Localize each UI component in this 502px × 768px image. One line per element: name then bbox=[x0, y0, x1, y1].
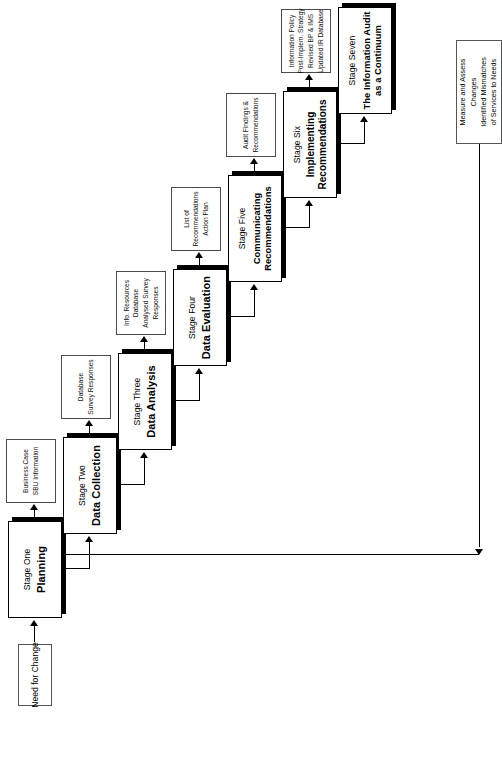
output-note-4: List ofRecommendationsAction Plan bbox=[171, 187, 221, 251]
output-note-4-line-2: Action Plan bbox=[201, 202, 211, 235]
arrow-stage-2-to-note-2 bbox=[85, 420, 93, 426]
output-note-5-line-1: Recommendations bbox=[251, 98, 261, 153]
connector-stage-4-to-note-4 bbox=[199, 257, 200, 267]
stage-box-7[interactable]: Stage SevenThe Information Audit as a Co… bbox=[338, 7, 392, 114]
stage-3-name: Data Analysis bbox=[145, 357, 158, 446]
connector-feedback-to-stage-one-h bbox=[479, 144, 480, 548]
connector-stage-5-to-stage-6-v bbox=[282, 227, 310, 228]
stage-5-name: Communicating Recommendations bbox=[251, 179, 273, 278]
output-note-6-line-3: Updated IR Database bbox=[316, 9, 326, 72]
entry-box-need-for-change: Need for Change bbox=[18, 644, 52, 706]
connector-stage-1-to-stage-2-h bbox=[89, 542, 90, 570]
output-note-4-line-0: List of bbox=[182, 210, 192, 228]
output-note-5: Audit Findings &Recommendations bbox=[226, 93, 276, 157]
output-note-3-line-1: Database bbox=[131, 289, 141, 317]
stage-box-6[interactable]: Stage SixImplementing Recommendations bbox=[283, 91, 337, 198]
stage-1-number: Stage One bbox=[22, 549, 32, 591]
stage-7-name: The Information Audit as a Continuum bbox=[361, 11, 383, 110]
connector-stage-5-to-note-5 bbox=[254, 163, 255, 173]
output-note-6-line-1: Post-Implem. Strategy bbox=[296, 8, 306, 73]
output-note-4-line-1: Recommendations bbox=[191, 192, 201, 247]
output-note-3-line-3: Responses bbox=[151, 287, 161, 320]
entry-label: Need for Change bbox=[29, 642, 41, 707]
feedback-box-measure-assess: Measure and AssessChangesIdentified Mism… bbox=[456, 40, 502, 144]
arrow-stage-1-to-stage-2 bbox=[85, 536, 93, 542]
connector-stage-1-to-note-1 bbox=[34, 509, 35, 519]
arrow-stage-3-to-note-3 bbox=[140, 336, 148, 342]
stage-6-name: Implementing Recommendations bbox=[305, 95, 329, 194]
connector-stage-1-to-stage-2-v bbox=[62, 568, 90, 569]
connector-stage-4-to-stage-5-h bbox=[254, 290, 255, 318]
connector-stage-2-to-stage-3-v bbox=[117, 484, 145, 485]
stage-5-number: Stage Five bbox=[237, 208, 247, 250]
output-note-6: Information PolicyPost-Implem. StrategyR… bbox=[281, 9, 331, 73]
arrow-stage-1-to-note-1 bbox=[30, 504, 38, 510]
connector-stage-6-to-note-6 bbox=[309, 79, 310, 89]
stage-box-4[interactable]: Stage FourData Evaluation bbox=[173, 269, 227, 366]
output-note-1: Business CaseSBU Information bbox=[6, 439, 56, 503]
connector-stage-2-to-stage-3-h bbox=[144, 458, 145, 486]
feedback-line-0: Measure and Assess bbox=[458, 59, 468, 126]
connector-stage-5-to-stage-6-h bbox=[309, 206, 310, 229]
stage-box-5[interactable]: Stage FiveCommunicating Recommendations bbox=[228, 175, 282, 282]
connector-stage-6-to-stage-7-h bbox=[364, 122, 365, 145]
feedback-line-3: of Services to Needs bbox=[489, 59, 499, 125]
output-note-1-line-0: Business Case bbox=[21, 449, 31, 493]
stage-2-number: Stage Two bbox=[77, 465, 87, 506]
stage-1-name: Planning bbox=[35, 525, 48, 614]
stage-3-number: Stage Three bbox=[132, 378, 142, 426]
output-note-3: Info. ResourcesDatabaseAnalysed SurveyRe… bbox=[116, 271, 166, 335]
arrow-stage-3-to-stage-4 bbox=[195, 368, 203, 374]
output-note-6-line-2: Revised BP & IMS bbox=[306, 14, 316, 68]
output-note-2-line-1: Survey Responses bbox=[86, 359, 96, 414]
stage-7-number: Stage Seven bbox=[347, 36, 357, 86]
arrow-stage-5-to-stage-6 bbox=[305, 200, 313, 206]
connector-stage-3-to-note-3 bbox=[144, 341, 145, 351]
output-note-2: DatabaseSurvey Responses bbox=[61, 355, 111, 419]
connector-stage-4-to-stage-5-v bbox=[227, 316, 255, 317]
stage-4-name: Data Evaluation bbox=[200, 273, 213, 362]
stage-box-3[interactable]: Stage ThreeData Analysis bbox=[118, 353, 172, 450]
arrow-stage-6-to-stage-7 bbox=[360, 116, 368, 122]
feedback-line-2: Identified Mismatches bbox=[479, 57, 489, 127]
arrow-stage-2-to-stage-3 bbox=[140, 452, 148, 458]
output-note-6-line-0: Information Policy bbox=[287, 15, 297, 67]
feedback-line-1: Changes bbox=[469, 78, 479, 107]
arrow-stage-4-to-note-4 bbox=[195, 252, 203, 258]
output-note-2-line-0: Database bbox=[76, 373, 86, 401]
arrow-stage-5-to-note-5 bbox=[250, 158, 258, 164]
output-note-1-line-1: SBU Information bbox=[31, 447, 41, 495]
connector-stage-2-to-note-2 bbox=[89, 425, 90, 435]
output-note-3-line-2: Analysed Survey bbox=[141, 278, 151, 327]
arrow-stage-4-to-stage-5 bbox=[250, 284, 258, 290]
stage-box-2[interactable]: Stage TwoData Collection bbox=[63, 437, 117, 534]
connector-stage-3-to-stage-4-h bbox=[199, 374, 200, 402]
connector-feedback-riser bbox=[62, 554, 479, 555]
arrow-entry-to-stage-one bbox=[30, 620, 38, 626]
stage-box-1[interactable]: Stage OnePlanning bbox=[8, 521, 62, 618]
output-note-3-line-0: Info. Resources bbox=[122, 280, 132, 326]
stage-4-number: Stage Four bbox=[187, 296, 197, 339]
stage-6-number: Stage Six bbox=[292, 126, 302, 163]
arrow-stage-6-to-note-6 bbox=[305, 74, 313, 80]
stage-2-name: Data Collection bbox=[90, 441, 103, 530]
output-note-5-line-0: Audit Findings & bbox=[241, 101, 251, 149]
connector-stage-3-to-stage-4-v bbox=[172, 400, 200, 401]
connector-entry-to-stage-one bbox=[34, 624, 35, 642]
connector-stage-6-to-stage-7-v bbox=[337, 143, 365, 144]
